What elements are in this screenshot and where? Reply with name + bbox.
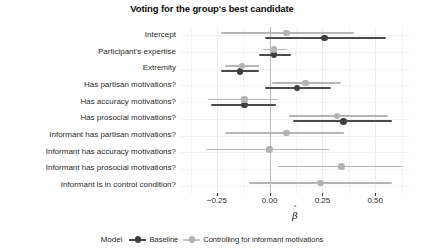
y-axis-label-item: Informant is in control condition? xyxy=(0,180,176,189)
hat-accent: ˆ xyxy=(293,205,297,214)
gridline-horizontal xyxy=(181,69,409,70)
y-axis-label-item: Has partisan motivations? xyxy=(0,80,176,89)
gridline-horizontal xyxy=(181,136,409,137)
estimate-point xyxy=(266,146,272,152)
y-axis-label-item: Has accuracy motivations? xyxy=(0,97,176,106)
estimate-point xyxy=(294,85,300,91)
y-axis-label-item: Has prosocial motivations? xyxy=(0,113,176,122)
estimate-point xyxy=(317,180,323,186)
estimate-point xyxy=(321,35,327,41)
x-tick-label: 0.25 xyxy=(315,196,331,205)
gridline-horizontal xyxy=(181,169,409,170)
x-tick-label: 0.00 xyxy=(262,196,278,205)
legend: Model Baseline Controlling for informant… xyxy=(0,235,424,244)
y-axis-label-item: Informant has prosocial motivations? xyxy=(0,163,176,172)
x-tick-label: −0.25 xyxy=(207,196,227,205)
legend-item-baseline[interactable]: Baseline xyxy=(129,235,178,244)
legend-key-controlling xyxy=(183,235,200,244)
gridline-horizontal xyxy=(181,186,409,187)
legend-label-baseline: Baseline xyxy=(149,235,178,244)
y-axis-label-item: Intercept xyxy=(0,30,176,39)
gridline-horizontal xyxy=(181,152,409,153)
legend-dot xyxy=(189,236,195,242)
estimate-point xyxy=(283,130,289,136)
legend-title: Model xyxy=(101,235,123,244)
estimate-point xyxy=(237,68,243,74)
y-axis-label-item: Extremity xyxy=(0,63,176,72)
legend-key-baseline xyxy=(129,235,146,244)
estimate-point xyxy=(283,30,289,36)
legend-item-controlling[interactable]: Controlling for informant motivations xyxy=(183,235,323,244)
estimate-point xyxy=(241,96,247,102)
x-tick-label: 0.50 xyxy=(367,196,383,205)
estimate-point xyxy=(271,46,277,52)
y-axis-labels: InterceptParticipant's expertiseExtremit… xyxy=(0,27,176,194)
gridline-horizontal xyxy=(181,102,409,103)
legend-dot xyxy=(135,236,141,242)
forest-plot-figure: Voting for the group's best candidate In… xyxy=(0,0,424,252)
x-axis-label: ˆβ xyxy=(181,210,409,221)
estimate-point xyxy=(340,118,346,124)
estimate-point xyxy=(302,80,308,86)
y-axis-label-item: Informant has accuracy motivations? xyxy=(0,147,176,156)
y-axis-label-item: Participant's expertise xyxy=(0,47,176,56)
plot-panel xyxy=(181,27,409,194)
estimate-point xyxy=(338,163,344,169)
beta-hat-symbol: ˆβ xyxy=(292,210,298,221)
y-axis-label-item: Informant has partisan motivations? xyxy=(0,130,176,139)
legend-label-controlling: Controlling for informant motivations xyxy=(203,235,323,244)
gridline-horizontal xyxy=(181,52,409,53)
chart-title: Voting for the group's best candidate xyxy=(0,3,424,14)
